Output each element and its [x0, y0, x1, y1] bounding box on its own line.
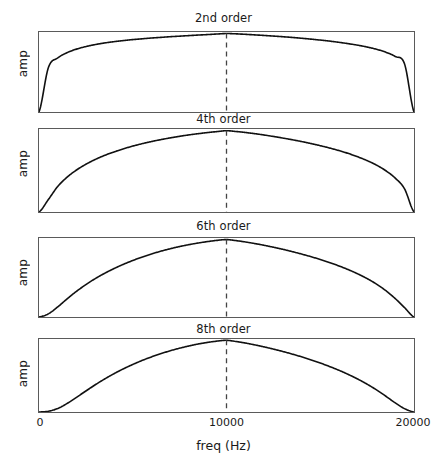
panel-title: 2nd order	[0, 12, 447, 25]
figure-canvas: 2nd order amp 4th order amp 6th order am…	[0, 0, 447, 463]
curve-svg-8th-order	[39, 339, 414, 412]
plot-area	[38, 338, 415, 413]
panel-title: 8th order	[0, 323, 447, 336]
plot-area	[38, 128, 415, 213]
x-tick-label: 20000	[396, 416, 431, 429]
curve-svg-6th-order	[39, 238, 414, 317]
x-axis-tick-labels: 0 10000 20000	[38, 416, 415, 430]
curve-svg-4th-order	[39, 129, 414, 212]
y-axis-label: amp	[16, 259, 30, 286]
x-tick-label: 0	[37, 416, 44, 429]
y-axis-label: amp	[16, 50, 30, 77]
plot-area	[38, 237, 415, 318]
curve-svg-2nd-order	[39, 32, 414, 112]
subplot-panel-8th-order: 8th order amp 0 10000 20000 freq (Hz)	[0, 320, 447, 463]
plot-area	[38, 31, 415, 113]
y-axis-label: amp	[16, 150, 30, 177]
subplot-panel-4th-order: 4th order amp	[0, 113, 447, 218]
subplot-panel-2nd-order: 2nd order amp	[0, 0, 447, 118]
x-axis-label: freq (Hz)	[0, 438, 447, 453]
y-axis-label: amp	[16, 360, 30, 387]
panel-title: 4th order	[0, 113, 447, 126]
panel-title: 6th order	[0, 220, 447, 233]
subplot-panel-6th-order: 6th order amp	[0, 218, 447, 320]
x-tick-label: 10000	[209, 416, 244, 429]
